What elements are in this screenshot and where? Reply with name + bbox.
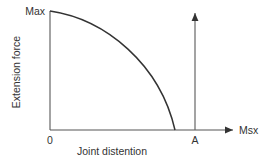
force-distention-diagram: Max 0 A Msx Joint distention Extension f… xyxy=(0,0,268,163)
x-axis-title: Joint distention xyxy=(77,145,147,157)
y-tick-max: Max xyxy=(25,5,46,17)
origin-label: 0 xyxy=(47,134,53,146)
x-marker-A: A xyxy=(191,134,198,146)
y-axis-title: Extension force xyxy=(10,36,22,109)
force-curve xyxy=(50,11,175,130)
x-axis-end-label: Msx xyxy=(239,124,259,136)
